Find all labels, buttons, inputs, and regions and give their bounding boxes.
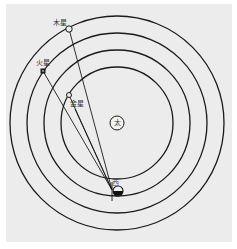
jupiter-label: 木星: [53, 19, 67, 27]
sightline-mars: [43, 71, 112, 190]
diagram-frame: 木星 火星 金星 太 西: [0, 0, 237, 249]
venus-label: 金星: [70, 100, 84, 108]
sun-label: 太: [111, 119, 123, 127]
earth-icon: [113, 186, 123, 196]
venus-icon: [67, 93, 72, 98]
earth-label: 西: [112, 179, 119, 187]
mars-label: 火星: [36, 59, 50, 67]
